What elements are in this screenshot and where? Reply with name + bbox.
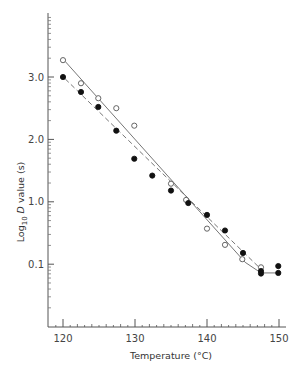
filled-circle-point xyxy=(150,173,155,178)
filled-circle-point xyxy=(222,228,227,233)
filled-circle-point xyxy=(78,89,83,94)
x-tick-label: 150 xyxy=(269,333,288,344)
y-axis-ticks: 3.02.01.00.1 xyxy=(28,17,54,307)
filled-circle-point xyxy=(132,156,137,161)
solid-fit-line xyxy=(65,61,278,273)
chart: 3.02.01.00.1 120130140150 Temperature (°… xyxy=(0,0,303,373)
filled-circle-point xyxy=(96,104,101,109)
filled-circle-point xyxy=(168,188,173,193)
open-circle-point xyxy=(78,81,83,86)
open-circle-point xyxy=(222,242,227,247)
x-axis-title: Temperature (°C) xyxy=(129,350,212,361)
open-circle-point xyxy=(240,257,245,262)
filled-circle-point xyxy=(240,250,245,255)
filled-circle-point xyxy=(60,74,65,79)
y-tick-label: 0.1 xyxy=(28,259,44,270)
y-tick-label: 2.0 xyxy=(28,134,44,145)
data-points xyxy=(60,58,280,277)
y-tick-label: 1.0 xyxy=(28,196,44,207)
filled-circle-point xyxy=(114,128,119,133)
x-tick-label: 130 xyxy=(125,333,144,344)
open-circle-point xyxy=(132,123,137,128)
open-circle-point xyxy=(96,96,101,101)
axes xyxy=(48,13,286,327)
x-tick-label: 120 xyxy=(53,333,72,344)
open-circle-point xyxy=(60,58,65,63)
dashed-fit-line xyxy=(65,79,261,269)
open-circle-point xyxy=(168,181,173,186)
filled-circle-point xyxy=(276,270,281,275)
x-axis-ticks: 120130140150 xyxy=(53,319,288,344)
open-circle-point xyxy=(204,226,209,231)
y-tick-label: 3.0 xyxy=(28,72,44,83)
fit-lines xyxy=(65,61,278,273)
filled-circle-point xyxy=(276,263,281,268)
y-axis-title: Log10 D value (s) xyxy=(15,162,29,243)
x-tick-label: 140 xyxy=(197,333,216,344)
open-circle-point xyxy=(114,106,119,111)
filled-circle-point xyxy=(204,212,209,217)
filled-circle-point xyxy=(186,200,191,205)
filled-circle-point xyxy=(258,271,263,276)
